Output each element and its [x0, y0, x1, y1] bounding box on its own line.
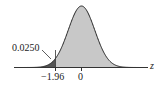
- tick-label-neg-1-96: −1.96: [41, 72, 64, 82]
- axis-label-z: z: [150, 61, 154, 71]
- body-shaded-region: [55, 6, 148, 68]
- left-tail-shaded-region: [14, 58, 55, 67]
- tick-label-zero: 0: [78, 72, 83, 82]
- annotation-leader-line: [42, 50, 51, 59]
- area-annotation-label: 0.0250: [12, 43, 40, 53]
